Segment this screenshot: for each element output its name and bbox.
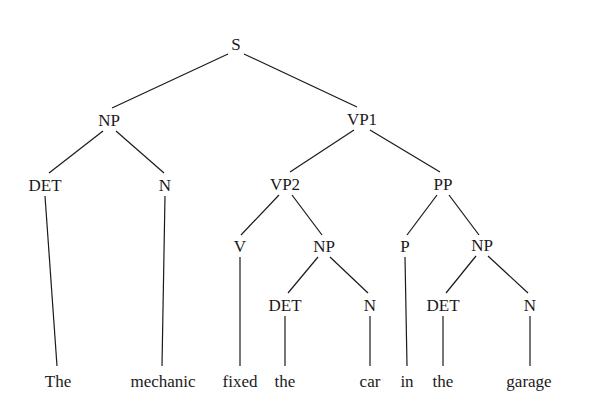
tree-edge — [407, 195, 437, 235]
tree-edge — [49, 131, 103, 173]
tree-leaf-word: The — [45, 373, 71, 390]
tree-edge — [244, 54, 357, 107]
tree-leaf-word: the — [275, 373, 296, 390]
tree-edge — [116, 131, 164, 173]
tree-node-pp: PP — [434, 176, 453, 193]
tree-leaf-word: the — [433, 373, 454, 390]
tree-leaf-word: in — [400, 373, 413, 390]
tree-node-np3: NP — [471, 237, 493, 254]
tree-node-np2: NP — [313, 238, 335, 255]
tree-edge — [449, 195, 479, 235]
tree-node-det1: DET — [28, 177, 61, 194]
tree-leaf-word: mechanic — [130, 373, 195, 390]
tree-node-det3: DET — [426, 297, 459, 314]
tree-edge — [405, 257, 407, 366]
tree-leaf-word: fixed — [223, 373, 258, 390]
tree-edge — [162, 196, 165, 366]
tree-node-v: V — [234, 238, 246, 255]
tree-edge — [290, 130, 354, 172]
tree-edges — [0, 0, 592, 415]
tree-edge — [241, 195, 279, 235]
tree-node-vp2: VP2 — [270, 176, 300, 193]
tree-edge — [446, 256, 476, 293]
tree-leaf-word: car — [360, 373, 381, 390]
tree-node-vp1: VP1 — [347, 111, 377, 128]
tree-node-np1: NP — [98, 112, 120, 129]
parse-tree-figure: SNPVP1DETNVP2PPVNPPNPDETNDETNThemechanic… — [0, 0, 592, 415]
tree-node-s: S — [231, 36, 240, 53]
tree-edge — [112, 54, 228, 108]
tree-node-n1: N — [159, 177, 171, 194]
tree-edge — [370, 130, 440, 172]
tree-edge — [330, 257, 368, 293]
tree-node-p: P — [400, 238, 409, 255]
tree-leaf-word: garage — [506, 373, 551, 390]
tree-edge — [292, 195, 322, 235]
tree-edge — [288, 257, 318, 293]
tree-edge — [488, 256, 528, 293]
tree-edge — [45, 196, 57, 366]
tree-node-det2: DET — [268, 297, 301, 314]
tree-node-n3: N — [524, 297, 536, 314]
tree-node-n2: N — [364, 297, 376, 314]
